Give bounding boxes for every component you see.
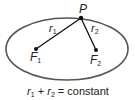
ellipse-diagram: P r1 r2 F1 F2 r1 + r2 = constant (0, 0, 135, 100)
r1-segment (36, 18, 81, 49)
point-p-label: P (79, 2, 87, 16)
focus2-label: F2 (90, 53, 101, 67)
focus1-label: F1 (30, 50, 41, 64)
r2-label: r2 (91, 22, 99, 35)
focus2-dot (94, 48, 98, 52)
point-p-dot (79, 16, 83, 20)
r1-label: r1 (49, 22, 57, 35)
equation-label: r1 + r2 = constant (27, 85, 109, 98)
